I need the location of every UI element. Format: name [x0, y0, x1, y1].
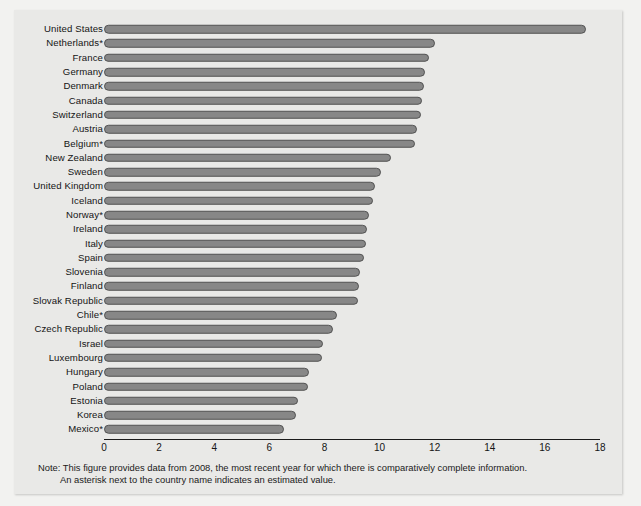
- bar-row: Poland: [14, 379, 622, 393]
- bar-track: [104, 268, 604, 277]
- bar: [104, 139, 415, 148]
- bar-row: New Zealand: [14, 151, 622, 165]
- bar-track: [104, 297, 604, 306]
- bar-track: [104, 239, 604, 248]
- bar: [104, 168, 381, 177]
- bar-category-label: Luxembourg: [0, 353, 103, 363]
- bar: [104, 339, 323, 348]
- x-tick-0: 0: [101, 442, 107, 453]
- bar-category-label: United Kingdom: [0, 181, 103, 191]
- bar-row: Slovak Republic: [14, 294, 622, 308]
- bar-row: United States: [14, 22, 622, 36]
- bar-row: Netherlands*: [14, 36, 622, 50]
- bar: [104, 311, 337, 320]
- bar-category-label: Switzerland: [0, 110, 103, 120]
- bar: [104, 297, 358, 306]
- bar-row: Spain: [14, 251, 622, 265]
- bar-row: Norway*: [14, 208, 622, 222]
- bar-track: [104, 325, 604, 334]
- bar-category-label: Spain: [0, 253, 103, 263]
- bar-track: [104, 411, 604, 420]
- bar-track: [104, 68, 604, 77]
- bar-track: [104, 425, 604, 434]
- bar-row: Mexico*: [14, 422, 622, 436]
- bar: [104, 425, 284, 434]
- bar-category-label: Slovak Republic: [0, 296, 103, 306]
- bar-row: Chile*: [14, 308, 622, 322]
- bar-track: [104, 368, 604, 377]
- x-tick-12: 12: [429, 442, 440, 453]
- bar-track: [104, 111, 604, 120]
- bar-track: [104, 225, 604, 234]
- bar-category-label: Israel: [0, 339, 103, 349]
- bar-row: Ireland: [14, 222, 622, 236]
- bar-row: Denmark: [14, 79, 622, 93]
- bar-row: Sweden: [14, 165, 622, 179]
- bar: [104, 397, 298, 406]
- bar: [104, 111, 421, 120]
- bar-track: [104, 96, 604, 105]
- bar: [104, 53, 429, 62]
- bar-track: [104, 82, 604, 91]
- bar: [104, 382, 308, 391]
- bar-row: Estonia: [14, 394, 622, 408]
- bar: [104, 225, 367, 234]
- bar: [104, 39, 435, 48]
- bar-track: [104, 39, 604, 48]
- bar-track: [104, 282, 604, 291]
- bar-row: Hungary: [14, 365, 622, 379]
- bar: [104, 82, 424, 91]
- bar: [104, 268, 360, 277]
- bar-category-label: Ireland: [0, 224, 103, 234]
- bar-track: [104, 196, 604, 205]
- bar-track: [104, 354, 604, 363]
- bar-category-label: Netherlands*: [0, 38, 103, 48]
- bar-row: Austria: [14, 122, 622, 136]
- bar: [104, 96, 422, 105]
- bar-track: [104, 53, 604, 62]
- bar: [104, 182, 375, 191]
- bar-row: Belgium*: [14, 136, 622, 150]
- bar: [104, 196, 373, 205]
- bar: [104, 354, 322, 363]
- note-line-1: Note: This figure provides data from 200…: [38, 462, 527, 473]
- bar-track: [104, 339, 604, 348]
- bar-rows: United StatesNetherlands*FranceGermanyDe…: [14, 22, 622, 437]
- bar-track: [104, 382, 604, 391]
- bar-category-label: Italy: [0, 239, 103, 249]
- bar-category-label: Austria: [0, 124, 103, 134]
- bar-track: [104, 397, 604, 406]
- bar-track: [104, 182, 604, 191]
- bar: [104, 282, 359, 291]
- bar-row: Czech Republic: [14, 322, 622, 336]
- x-axis-tick-labels: 024681012141618: [104, 441, 600, 455]
- bar-track: [104, 125, 604, 134]
- bar: [104, 411, 296, 420]
- bar-category-label: United States: [0, 24, 103, 34]
- bar-category-label: Germany: [0, 67, 103, 77]
- x-tick-14: 14: [484, 442, 495, 453]
- bar-category-label: France: [0, 53, 103, 63]
- bar-track: [104, 139, 604, 148]
- bar-category-label: Norway*: [0, 210, 103, 220]
- bar-category-label: Estonia: [0, 396, 103, 406]
- bar-category-label: Iceland: [0, 196, 103, 206]
- bar-category-label: Denmark: [0, 81, 103, 91]
- x-tick-18: 18: [594, 442, 605, 453]
- bar: [104, 25, 586, 34]
- bar-chart-plot-area: United StatesNetherlands*FranceGermanyDe…: [14, 22, 622, 447]
- bar-row: Luxembourg: [14, 351, 622, 365]
- x-tick-10: 10: [374, 442, 385, 453]
- bar: [104, 154, 391, 163]
- x-tick-8: 8: [322, 442, 328, 453]
- note-line-2: An asterisk next to the country name ind…: [38, 474, 608, 486]
- bar-row: United Kingdom: [14, 179, 622, 193]
- bar-category-label: New Zealand: [0, 153, 103, 163]
- bar-category-label: Chile*: [0, 310, 103, 320]
- x-tick-4: 4: [211, 442, 217, 453]
- bar-row: Finland: [14, 279, 622, 293]
- bar-row: Iceland: [14, 194, 622, 208]
- bar-category-label: Sweden: [0, 167, 103, 177]
- bar-category-label: Poland: [0, 382, 103, 392]
- bar-category-label: Hungary: [0, 367, 103, 377]
